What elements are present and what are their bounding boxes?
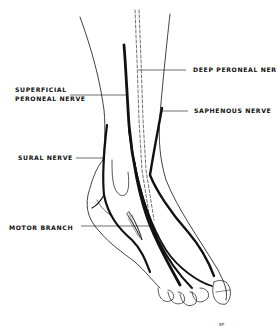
leg-outline-right xyxy=(159,14,226,300)
label-superficial-line2: PERONEAL NERVE xyxy=(15,94,86,103)
label-motor-branch: MOTOR BRANCH xyxy=(9,223,73,232)
label-saphenous-nerve: SAPHENOUS NERVE xyxy=(194,106,271,115)
label-superficial-peroneal-nerve: SUPERFICIAL PERONEAL NERVE xyxy=(15,85,86,103)
malleolus xyxy=(112,160,129,196)
label-deep-peroneal-nerve: DEEP PERONEAL NERVE xyxy=(193,65,277,74)
toes xyxy=(158,281,231,306)
artist-signature: BP xyxy=(219,322,224,327)
label-sural-nerve: SURAL NERVE xyxy=(18,153,73,162)
foot-nerve-diagram xyxy=(0,0,277,333)
label-superficial-line1: SUPERFICIAL xyxy=(15,85,86,94)
